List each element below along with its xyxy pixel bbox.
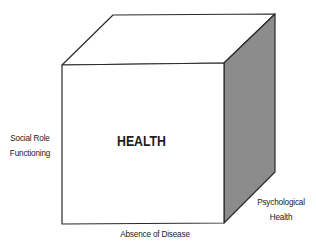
psychological-line1: Psychological — [252, 194, 310, 209]
psychological-health-label: Psychological Health — [252, 194, 310, 224]
social-role-line1: Social Role — [6, 130, 54, 145]
absence-of-disease-label: Absence of Disease — [108, 226, 203, 241]
social-role-functioning-label: Social Role Functioning — [6, 130, 54, 160]
social-role-line2: Functioning — [6, 145, 54, 160]
absence-of-disease-line1: Absence of Disease — [108, 226, 203, 241]
psychological-line2: Health — [252, 209, 310, 224]
health-label: HEALTH — [117, 132, 166, 149]
